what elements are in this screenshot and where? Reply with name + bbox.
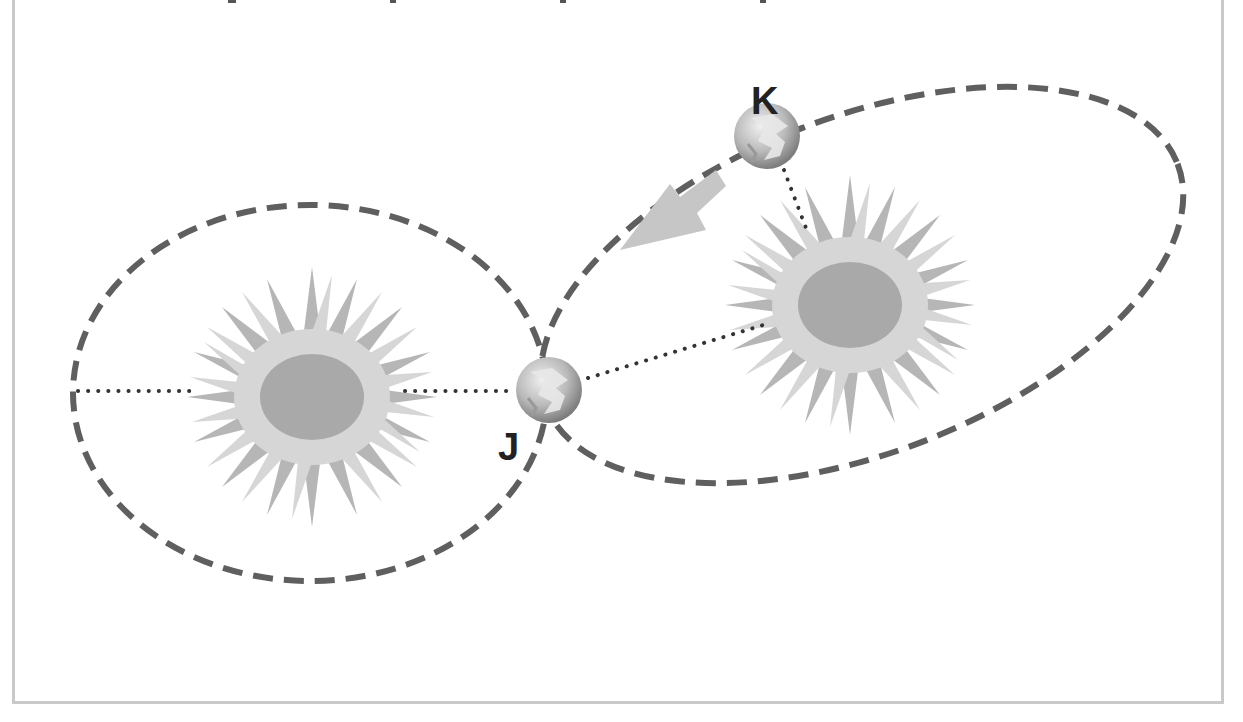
motion-arrow xyxy=(620,170,726,250)
planet-j xyxy=(516,357,582,423)
clipped-text-fragments xyxy=(228,0,766,3)
planet-k-label: K xyxy=(751,82,778,120)
right-sun xyxy=(725,175,975,435)
planet-j-label: J xyxy=(498,428,519,466)
orbit-diagram xyxy=(0,0,1243,722)
left-sun xyxy=(187,267,437,527)
